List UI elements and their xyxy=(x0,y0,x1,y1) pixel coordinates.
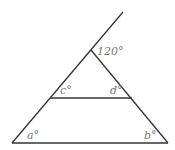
geometry-diagram: 120° c° d° a° b° xyxy=(0,0,175,150)
extended-side-ray xyxy=(12,12,123,143)
label-angle-b: b° xyxy=(144,129,157,142)
label-angle-a: a° xyxy=(27,129,39,142)
diagram-svg: 120° c° d° a° b° xyxy=(0,0,175,150)
label-angle-d: d° xyxy=(110,84,123,97)
label-exterior-angle: 120° xyxy=(97,45,124,58)
label-angle-c: c° xyxy=(60,84,72,97)
